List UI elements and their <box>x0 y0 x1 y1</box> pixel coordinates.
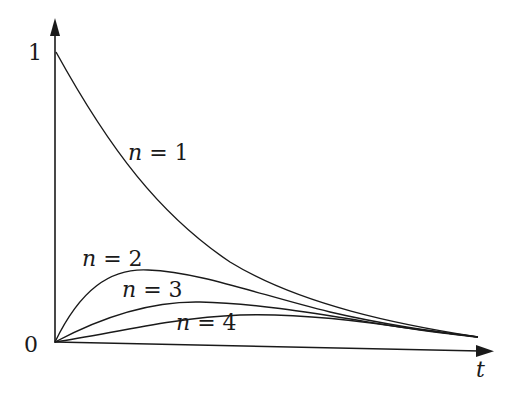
label-n1-rest: = 1 <box>142 140 188 165</box>
label-n2-var: n <box>82 246 96 271</box>
label-n1: n = 1 <box>128 140 189 165</box>
label-n3-rest: = 3 <box>136 277 182 302</box>
origin-label: 0 <box>24 332 38 357</box>
label-n4: n = 4 <box>176 310 237 335</box>
label-n2-rest: = 2 <box>96 246 142 271</box>
y-tick-one: 1 <box>28 40 42 65</box>
x-axis-label: t <box>476 357 485 382</box>
label-n4-var: n <box>176 310 190 335</box>
x-axis <box>55 342 480 351</box>
curve-n3 <box>55 302 478 342</box>
x-axis-arrow-icon <box>476 345 494 357</box>
label-n4-rest: = 4 <box>190 310 236 335</box>
y-axis-arrow-icon <box>50 18 60 36</box>
label-n3-var: n <box>122 277 136 302</box>
curve-n1 <box>56 52 478 337</box>
label-n1-var: n <box>128 140 142 165</box>
label-n3: n = 3 <box>122 277 183 302</box>
chart: 1 0 t n = 1 n = 2 n = 3 n = 4 <box>0 0 521 394</box>
label-n2: n = 2 <box>82 246 143 271</box>
